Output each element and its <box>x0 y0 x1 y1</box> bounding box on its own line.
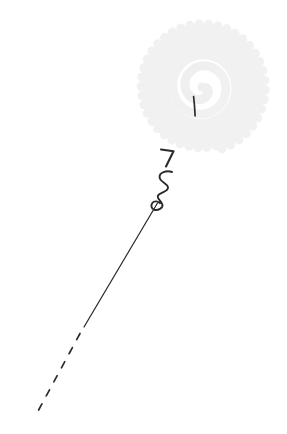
spiral-dot <box>204 20 213 29</box>
spiral-dot <box>258 66 267 75</box>
spiral-dot <box>176 24 185 33</box>
spiral-dot <box>147 117 156 126</box>
spiral-dot <box>234 135 243 144</box>
drawing-canvas <box>0 0 287 434</box>
spiral-dot <box>153 124 162 133</box>
spiral-dot <box>253 113 262 122</box>
spiral-dot <box>137 91 146 100</box>
spiral-dot <box>245 41 254 50</box>
spiral-dot <box>260 76 269 85</box>
spiral-dot <box>139 100 148 109</box>
spiral-dot <box>226 140 235 149</box>
spiral-dot <box>217 144 226 153</box>
spiral-dot <box>251 49 260 58</box>
figure-svg <box>0 0 287 434</box>
spiral-dot <box>242 129 251 138</box>
spiral-dot <box>230 29 239 38</box>
spiral-dot <box>260 85 269 94</box>
spiral-dot <box>168 28 177 37</box>
spiral-dot <box>139 63 148 72</box>
spiral-dot <box>143 55 152 64</box>
spiral-dot <box>193 143 202 152</box>
spiral-dot <box>259 95 268 104</box>
spiral-dot <box>143 109 152 118</box>
spiral-dot <box>222 24 231 33</box>
spiral-dot <box>147 46 156 55</box>
spiral-dot <box>202 143 211 152</box>
spiral-dot <box>248 122 257 131</box>
spiral-dot <box>257 104 266 113</box>
spiral-dot <box>194 20 203 29</box>
spiral-dot <box>167 135 176 144</box>
spiral-dot <box>213 21 222 30</box>
spiral-dot <box>137 72 146 81</box>
spiral-dot <box>255 57 264 66</box>
spiral-dot <box>185 21 194 30</box>
spiral-dot <box>137 82 146 91</box>
spiral-dot <box>176 139 185 148</box>
spiral-dot <box>153 39 162 48</box>
spiral-dot <box>238 34 247 43</box>
spiral-dot <box>160 33 169 42</box>
spiral-dot <box>160 130 169 139</box>
spiral-dot <box>184 142 193 151</box>
